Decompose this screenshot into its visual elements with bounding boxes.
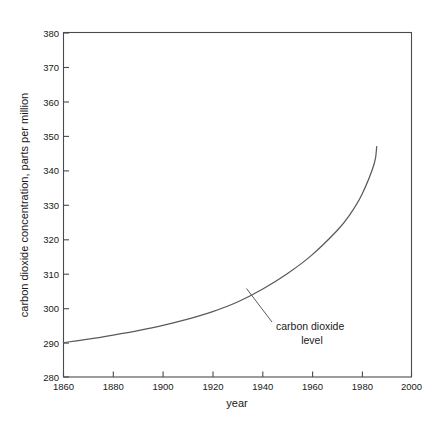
co2-concentration-chart: 380 370 360 350 340 330 320 310 300 290 …: [0, 0, 440, 435]
chart-background: [0, 0, 440, 435]
y-tick-label: 300: [43, 303, 59, 314]
y-tick-label: 350: [43, 131, 59, 142]
x-tick-label: 1900: [153, 381, 174, 392]
y-tick-label: 290: [43, 338, 59, 349]
chart-canvas: 380 370 360 350 340 330 320 310 300 290 …: [0, 0, 440, 435]
x-tick-label: 2000: [401, 381, 422, 392]
y-tick-label: 330: [43, 200, 59, 211]
x-tick-label: 1860: [53, 381, 74, 392]
y-tick-label: 370: [43, 62, 59, 73]
y-tick-label: 320: [43, 234, 59, 245]
y-tick-label: 340: [43, 165, 59, 176]
annotation-label-line2: level: [301, 334, 323, 346]
y-tick-label: 360: [43, 97, 59, 108]
x-tick-label: 1920: [202, 381, 223, 392]
y-axis-title: carbon dioxide concentration, parts per …: [18, 93, 30, 317]
x-axis-title: year: [226, 397, 248, 409]
x-tick-label: 1980: [352, 381, 373, 392]
y-tick-label: 380: [43, 28, 59, 39]
annotation-label-line1: carbon dioxide: [276, 320, 344, 332]
x-tick-label: 1880: [103, 381, 124, 392]
y-tick-label: 310: [43, 269, 59, 280]
x-tick-label: 1960: [302, 381, 323, 392]
x-tick-label: 1940: [252, 381, 273, 392]
